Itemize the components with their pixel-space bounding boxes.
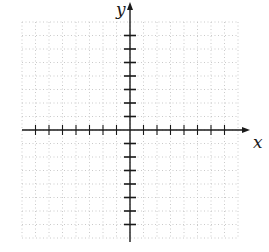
y-axis-label: y bbox=[115, 0, 126, 19]
axes bbox=[22, 2, 250, 242]
x-axis-arrow-icon bbox=[242, 127, 250, 133]
y-axis-arrow-icon bbox=[127, 2, 133, 10]
coordinate-plane: x y bbox=[0, 0, 269, 252]
x-axis-label: x bbox=[253, 132, 263, 152]
